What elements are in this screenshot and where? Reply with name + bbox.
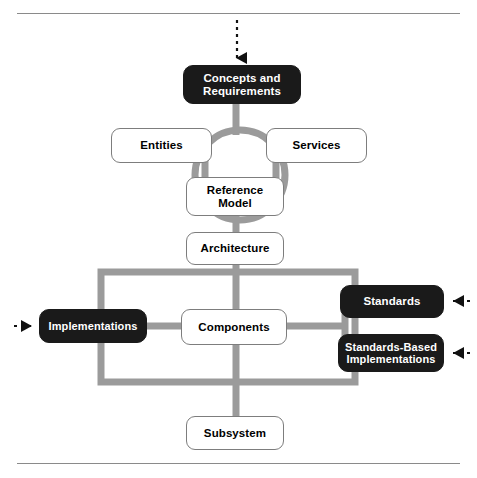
node-label-line1: Reference: [187, 184, 283, 197]
node-label-line1: Standards-Based: [339, 341, 443, 353]
diagram-canvas: Concepts and Requirements Entities Servi…: [0, 0, 477, 478]
node-label-line2: Model: [187, 197, 283, 210]
node-label-line1: Concepts and: [184, 72, 300, 85]
node-label: Services: [267, 139, 366, 152]
node-label: Implementations: [40, 320, 146, 332]
node-label: Components: [182, 321, 286, 334]
node-label-line2: Requirements: [184, 85, 300, 98]
node-standards[interactable]: Standards: [340, 285, 444, 318]
node-label: Subsystem: [187, 427, 283, 440]
node-architecture[interactable]: Architecture: [186, 232, 284, 265]
node-label: Architecture: [187, 242, 283, 255]
top-divider-rule: [17, 13, 460, 14]
node-label: Standards: [341, 295, 443, 308]
node-standards-based-implementations[interactable]: Standards-Based Implementations: [338, 334, 444, 372]
node-reference-model[interactable]: Reference Model: [186, 177, 284, 216]
node-concepts-and-requirements[interactable]: Concepts and Requirements: [183, 65, 301, 104]
node-subsystem[interactable]: Subsystem: [186, 416, 284, 450]
node-label-line2: Implementations: [339, 353, 443, 365]
node-services[interactable]: Services: [266, 128, 367, 163]
node-entities[interactable]: Entities: [111, 128, 212, 163]
bottom-divider-rule: [17, 463, 460, 464]
node-components[interactable]: Components: [181, 309, 287, 345]
node-implementations[interactable]: Implementations: [39, 309, 147, 343]
node-label: Entities: [112, 139, 211, 152]
